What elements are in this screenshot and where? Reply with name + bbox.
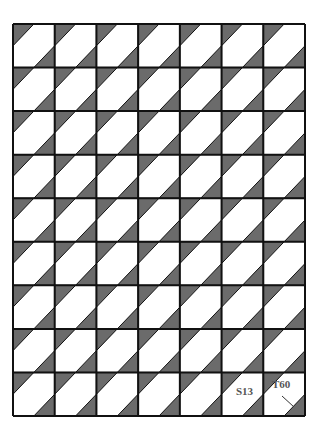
label-t60: T60 (272, 378, 290, 390)
label-s13: S13 (236, 385, 253, 397)
quilt-diagram (0, 0, 317, 444)
